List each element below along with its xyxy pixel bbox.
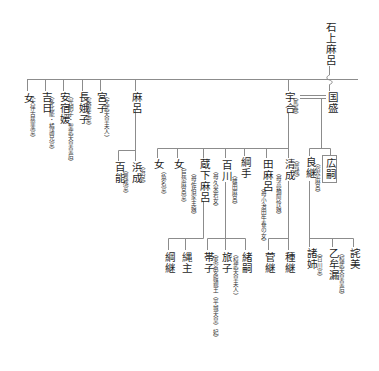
- person-moroane-note: （百川室）: [317, 250, 323, 280]
- person-yoshihi-note: （多比能・橘諸兄室）: [49, 93, 55, 153]
- person-kunimori: 国盛: [326, 92, 337, 114]
- person-hirotsugu: 広嗣: [324, 158, 335, 180]
- person-otsugu: 緒嗣: [240, 252, 251, 274]
- person-takumi: 詫美: [348, 248, 359, 270]
- person-moroane: 諸姉: [305, 248, 316, 270]
- person-nagako-note: （長屋王室）: [86, 93, 92, 129]
- person-otomuro-note: （桓武天皇皇后）: [339, 250, 345, 298]
- person-maro: 麻呂: [130, 92, 141, 114]
- person-yoshitsugu: 良継: [304, 157, 315, 179]
- person-daughter-3-note: （巨勢麻呂室）: [181, 164, 187, 206]
- person-tadanushi: 縄主: [180, 252, 191, 274]
- person-momoyoshi-note: （豊成室）: [123, 167, 129, 197]
- person-tsunate: 綱手: [239, 157, 250, 179]
- person-hirotsugu-box: 広嗣: [322, 155, 337, 183]
- person-kiyonari-alias-note: （普成）: [294, 157, 300, 181]
- person-miyako-note: （文武天皇夫人）: [104, 93, 110, 141]
- person-tabiko-note: （桓武天皇夫人）: [233, 251, 239, 299]
- genealogy-connector-lines: [0, 0, 379, 371]
- person-momokawa-mother-note: （母久米若女）: [213, 168, 219, 210]
- person-otomuro: 乙牟漏: [327, 248, 338, 281]
- person-daughter-2-note: （魚名室）: [161, 168, 167, 198]
- person-tabiko: 旅子: [220, 252, 231, 274]
- person-kiyonari: 清成: [283, 159, 294, 181]
- person-tanetsugu: 種継: [283, 252, 294, 274]
- person-sugatsugu: 菅継: [263, 252, 274, 274]
- person-asukahime-note: （光明子・聖武天皇皇后）: [68, 93, 74, 165]
- person-kurajimaro-note: （母佐伯家主娘）: [191, 170, 197, 218]
- person-kurajimaro: 蔵下麻呂: [198, 159, 209, 203]
- person-tarashiko-note: （東宮安殿親王（平城天皇）妃）: [213, 251, 219, 341]
- person-kiyonari-mother-note: （母高橋阿怜娘）: [276, 170, 282, 218]
- person-tsunatsugu: 綱継: [163, 252, 174, 274]
- person-momokawa-alias-note: （雄田麻呂）: [232, 172, 238, 208]
- person-hamanari-note: （浜足）: [140, 163, 146, 187]
- person-daughter-1-note: （大伴古慈斐室）: [30, 93, 36, 141]
- person-isonokami-maro: 石上麻呂: [324, 22, 335, 66]
- person-momokawa: 百川: [220, 160, 231, 182]
- person-tamaro-note: （母小治田牛養の女）: [261, 185, 267, 245]
- person-umakai-note: （馬養）: [293, 94, 299, 118]
- person-yoshitsugu-note: （宿奈麻呂）: [315, 160, 321, 196]
- person-tarashiko: 帯子: [202, 252, 213, 274]
